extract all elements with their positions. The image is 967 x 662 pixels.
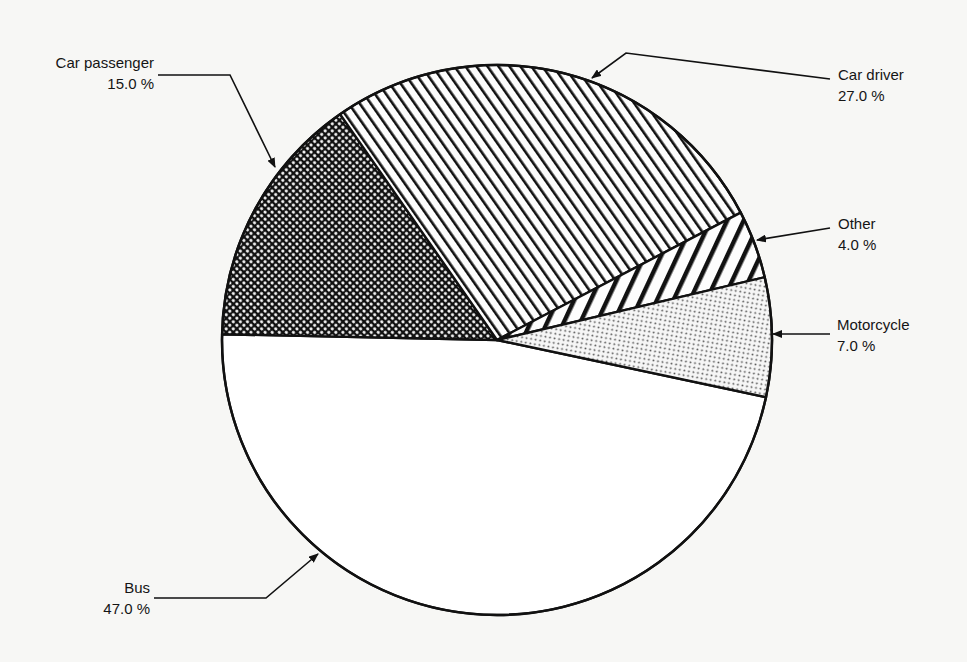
car-driver-leader: [592, 53, 830, 79]
label-car-driver: Car driver 27.0 %: [838, 64, 904, 106]
label-car-driver-value: 27.0 %: [838, 85, 904, 106]
bus-leader: [154, 554, 318, 598]
label-car-passenger-name: Car passenger: [27, 52, 154, 73]
label-car-passenger-value: 15.0 %: [27, 73, 154, 94]
label-bus-value: 47.0 %: [60, 598, 150, 619]
pie-chart: Car passenger 15.0 % Car driver 27.0 % O…: [0, 0, 967, 662]
label-motorcycle-value: 7.0 %: [837, 335, 910, 356]
label-motorcycle-name: Motorcycle: [837, 314, 910, 335]
label-other-name: Other: [838, 213, 876, 234]
pie-slices: [222, 65, 772, 615]
label-bus: Bus 47.0 %: [60, 577, 150, 619]
label-other-value: 4.0 %: [838, 234, 876, 255]
pie-chart-canvas: [0, 0, 967, 662]
label-car-passenger: Car passenger 15.0 %: [27, 52, 154, 94]
other-leader: [757, 228, 830, 240]
label-car-driver-name: Car driver: [838, 64, 904, 85]
label-other: Other 4.0 %: [838, 213, 876, 255]
label-motorcycle: Motorcycle 7.0 %: [837, 314, 910, 356]
car-passenger-leader: [158, 75, 275, 167]
label-bus-name: Bus: [60, 577, 150, 598]
